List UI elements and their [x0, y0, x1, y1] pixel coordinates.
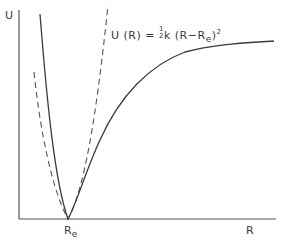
potential-curve: [40, 14, 274, 219]
y-axis-label: U: [5, 10, 13, 21]
eq-lhs: U (R) =: [111, 29, 159, 42]
eq-rhs: k (R−R: [164, 29, 206, 42]
harmonic-curve: [34, 5, 108, 219]
re-tick-label: Re: [64, 225, 77, 239]
re-sub: e: [72, 229, 78, 239]
potential-energy-diagram: U R Re U (R) = 12k (R−Re)2: [0, 0, 282, 242]
x-axis-label: R: [246, 225, 254, 236]
harmonic-equation: U (R) = 12k (R−Re)2: [111, 26, 221, 44]
re-main: R: [64, 224, 72, 237]
eq-power: 2: [216, 28, 221, 36]
